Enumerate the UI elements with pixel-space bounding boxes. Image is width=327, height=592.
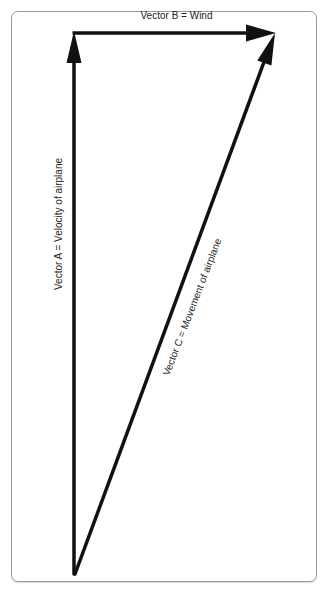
vector-b-arrow [73,25,277,42]
vector-a-arrow [67,31,82,574]
vector-b-label: Vector B = Wind [0,10,327,21]
vector-b-label-text: Vector B = Wind [141,10,213,21]
vector-diagram [0,0,327,592]
vector-a-label: Vector A = Velocity of airplane [53,158,64,290]
vector-c-arrow [75,33,275,574]
